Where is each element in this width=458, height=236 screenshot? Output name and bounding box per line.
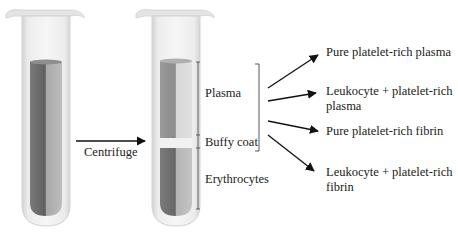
erythrocytes-layer (160, 148, 192, 216)
product-l-prp-line2: plasma (326, 99, 452, 114)
product-l-prp: Leukocyte + platelet-rich plasma (326, 84, 452, 114)
product-pure-prf: Pure platelet-rich fibrin (326, 124, 443, 139)
whole-blood-fill (30, 62, 62, 216)
layer-label-plasma: Plasma (205, 86, 241, 101)
product-pure-prf-text: Pure platelet-rich fibrin (326, 124, 443, 138)
layer-label-buffy-coat: Buffy coat (205, 135, 258, 150)
tube-whole-blood (6, 10, 84, 227)
product-pure-prp-text: Pure platelet-rich plasma (326, 45, 451, 59)
layer-label-erythrocytes: Erythrocytes (205, 172, 269, 187)
centrifuge-label: Centrifuge (84, 145, 137, 160)
diagram-canvas (0, 0, 458, 236)
product-arrows (268, 55, 318, 171)
tube-separated (136, 10, 214, 227)
plasma-layer (160, 61, 192, 138)
product-l-prf-line1: Leukocyte + platelet-rich (326, 165, 452, 180)
product-pure-prp: Pure platelet-rich plasma (326, 45, 451, 60)
product-l-prp-line1: Leukocyte + platelet-rich (326, 84, 452, 99)
product-l-prf-line2: fibrin (326, 180, 452, 195)
product-l-prf: Leukocyte + platelet-rich fibrin (326, 165, 452, 195)
buffy-coat-layer (160, 138, 192, 148)
